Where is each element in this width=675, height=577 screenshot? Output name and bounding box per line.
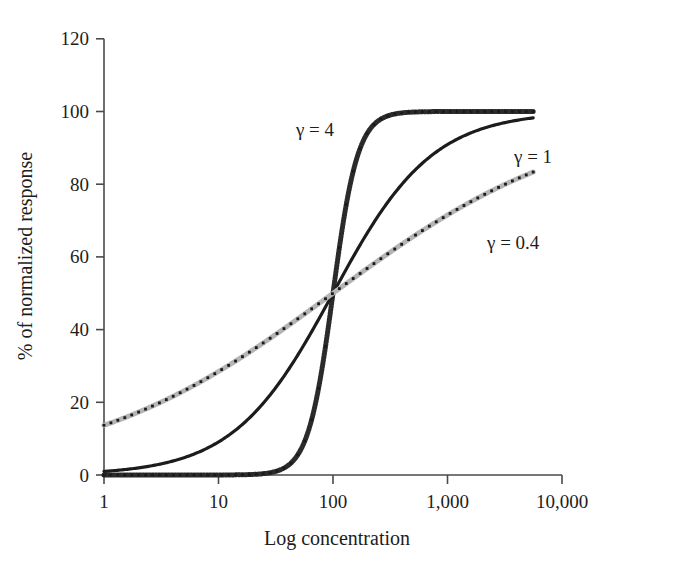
- y-tick-label: 80: [70, 174, 89, 195]
- data-point-marker: [206, 376, 209, 379]
- x-tick-label: 100: [319, 491, 348, 512]
- data-point-marker: [442, 110, 445, 113]
- axes: 020406080100120 1101001,00010,000: [61, 28, 589, 512]
- data-point-marker: [469, 110, 472, 113]
- data-point-marker: [303, 440, 306, 443]
- data-point-marker: [490, 189, 493, 192]
- data-point-marker: [220, 368, 223, 371]
- y-tick-label: 20: [70, 392, 89, 413]
- data-point-marker: [525, 174, 528, 177]
- data-point-marker: [290, 322, 293, 325]
- data-point-marker: [511, 110, 514, 113]
- data-point-marker: [428, 110, 431, 113]
- data-point-marker: [172, 474, 175, 477]
- data-point-marker: [283, 467, 286, 470]
- data-point-marker: [414, 234, 417, 237]
- data-curves: [103, 110, 535, 476]
- data-point-marker: [296, 453, 299, 456]
- x-axis-title: Log concentration: [264, 527, 410, 550]
- data-point-marker: [463, 110, 466, 113]
- data-point-marker: [165, 398, 168, 401]
- data-point-marker: [331, 292, 334, 295]
- data-point-marker: [110, 474, 113, 477]
- data-point-marker: [345, 203, 348, 206]
- data-point-marker: [241, 355, 244, 358]
- data-point-marker: [414, 111, 417, 114]
- data-point-marker: [407, 238, 410, 241]
- data-point-marker: [193, 474, 196, 477]
- data-point-marker: [130, 414, 133, 417]
- data-point-marker: [213, 372, 216, 375]
- data-point-marker: [248, 351, 251, 354]
- data-point-marker: [379, 257, 382, 260]
- data-point-marker: [137, 411, 140, 414]
- data-point-marker: [206, 474, 209, 477]
- curve-markers: [103, 110, 535, 476]
- data-point-marker: [262, 342, 265, 345]
- data-point-marker: [400, 243, 403, 246]
- data-point-marker: [137, 474, 140, 477]
- data-point-marker: [352, 170, 355, 173]
- data-point-marker: [220, 474, 223, 477]
- data-point-marker: [123, 416, 126, 419]
- data-point-marker: [379, 118, 382, 121]
- data-point-marker: [116, 419, 119, 422]
- data-point-marker: [373, 123, 376, 126]
- y-tick-label: 0: [80, 465, 90, 486]
- data-point-marker: [428, 225, 431, 228]
- data-point-marker: [179, 391, 182, 394]
- data-point-marker: [386, 252, 389, 255]
- data-point-marker: [303, 312, 306, 315]
- data-point-marker: [393, 113, 396, 116]
- data-point-marker: [276, 470, 279, 473]
- x-tick-label: 10: [209, 491, 228, 512]
- data-point-marker: [373, 262, 376, 265]
- chart-canvas: 020406080100120 1101001,00010,000 γ = 4γ…: [0, 0, 675, 577]
- data-point-marker: [151, 474, 154, 477]
- data-point-marker: [158, 402, 161, 405]
- data-point-marker: [407, 111, 410, 114]
- data-point-marker: [483, 110, 486, 113]
- data-point-marker: [186, 474, 189, 477]
- data-point-marker: [400, 112, 403, 115]
- data-point-marker: [497, 186, 500, 189]
- data-point-marker: [435, 110, 438, 113]
- curve-1: [104, 118, 533, 472]
- series-label-4: γ = 4: [295, 119, 335, 140]
- series-annotations: γ = 4γ = 1γ = 0.4: [295, 119, 552, 253]
- data-point-marker: [532, 110, 535, 113]
- data-point-marker: [359, 147, 362, 150]
- data-point-marker: [213, 474, 216, 477]
- y-tick-label: 120: [61, 28, 90, 49]
- data-point-marker: [476, 197, 479, 200]
- data-point-marker: [158, 474, 161, 477]
- data-point-marker: [449, 212, 452, 215]
- x-tick-label: 1,000: [426, 491, 469, 512]
- data-point-marker: [504, 183, 507, 186]
- data-point-marker: [345, 282, 348, 285]
- data-point-marker: [366, 267, 369, 270]
- data-point-marker: [366, 132, 369, 135]
- data-point-marker: [352, 277, 355, 280]
- data-point-marker: [234, 473, 237, 476]
- x-tick-label: 10,000: [536, 491, 588, 512]
- data-point-marker: [386, 114, 389, 117]
- data-point-marker: [442, 216, 445, 219]
- data-point-marker: [130, 474, 133, 477]
- data-point-marker: [269, 337, 272, 340]
- data-point-marker: [227, 364, 230, 367]
- chart-figure: 020406080100120 1101001,00010,000 γ = 4γ…: [0, 0, 675, 577]
- data-point-marker: [421, 110, 424, 113]
- data-point-marker: [504, 110, 507, 113]
- data-point-marker: [179, 474, 182, 477]
- y-tick-label: 100: [61, 101, 90, 122]
- data-point-marker: [518, 176, 521, 179]
- data-point-marker: [234, 360, 237, 363]
- y-tick-label: 60: [70, 246, 89, 267]
- data-point-marker: [324, 297, 327, 300]
- data-point-marker: [193, 384, 196, 387]
- data-point-marker: [497, 110, 500, 113]
- data-point-marker: [172, 395, 175, 398]
- data-point-marker: [518, 110, 521, 113]
- data-point-marker: [490, 110, 493, 113]
